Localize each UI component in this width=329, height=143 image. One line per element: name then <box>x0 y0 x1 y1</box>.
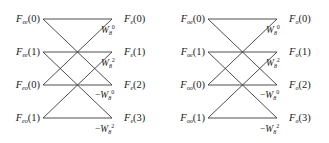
input-label-2: Foo(0) <box>165 80 205 91</box>
input-label-1: Foe(1) <box>165 47 205 58</box>
twiddle-label-2: −W80 <box>95 91 114 101</box>
output-label-0: Fe(0) <box>124 14 145 25</box>
output-label-1: Fe(1) <box>124 47 145 58</box>
twiddle-label-0: W80 <box>266 26 280 36</box>
fft-butterfly-figure: Fee(0) Fee(1) Feo(0) Feo(1) W80 W82 −W80… <box>0 0 329 143</box>
output-label-3: Fo(3) <box>289 113 311 124</box>
output-label-0: Fo(0) <box>289 14 311 25</box>
output-label-3: Fe(3) <box>124 113 145 124</box>
input-label-0: Fee(0) <box>0 14 40 25</box>
input-label-0: Foe(0) <box>165 14 205 25</box>
input-label-2: Feo(0) <box>0 80 40 91</box>
twiddle-label-1: W82 <box>101 59 115 69</box>
input-label-1: Fee(1) <box>0 47 40 58</box>
twiddle-label-0: W80 <box>101 26 115 36</box>
output-label-2: Fe(2) <box>124 80 145 91</box>
twiddle-label-1: W82 <box>266 59 280 69</box>
twiddle-label-3: −W82 <box>260 125 279 135</box>
input-label-3: Foo(1) <box>165 113 205 124</box>
output-label-2: Fo(2) <box>289 80 311 91</box>
butterfly-panel-even: Fee(0) Fee(1) Feo(0) Feo(1) W80 W82 −W80… <box>0 0 164 143</box>
output-label-1: Fo(1) <box>289 47 311 58</box>
input-label-3: Feo(1) <box>0 113 40 124</box>
butterfly-panel-odd: Foe(0) Foe(1) Foo(0) Foo(1) W80 W82 −W80… <box>165 0 329 143</box>
twiddle-label-2: −W80 <box>260 91 279 101</box>
twiddle-label-3: −W82 <box>95 125 114 135</box>
